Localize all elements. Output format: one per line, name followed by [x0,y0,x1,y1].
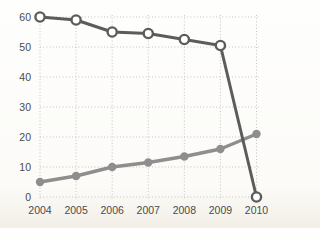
rising-series-filled-circles-point-2010 [252,130,260,138]
y-axis-tick-label: 10 [19,161,31,173]
rising-series-filled-circles-point-2004 [36,178,44,186]
rising-series-filled-circles-point-2007 [144,158,152,166]
x-axis-tick-label: 2007 [137,204,161,216]
y-axis-tick-label: 30 [19,101,31,113]
x-axis-tick-labels: 2004200520062007200820092010 [28,204,268,216]
x-axis-tick-label: 2004 [28,204,52,216]
line-chart: 0102030405060 20042005200620072008200920… [0,0,276,228]
gridlines-group [40,15,259,199]
rising-series-filled-circles-point-2006 [108,163,116,171]
rising-series-filled-circles-point-2005 [72,172,80,180]
y-axis-tick-label: 50 [19,41,31,53]
y-axis-tick-label: 60 [19,11,31,23]
declining-series-open-circles-point-2006 [108,27,117,36]
declining-series-open-circles-point-2007 [144,29,153,38]
declining-series-open-circles-point-2004 [35,12,44,21]
declining-series-open-circles-point-2008 [180,35,189,44]
y-axis-tick-label: 40 [19,71,31,83]
declining-series-open-circles-point-2009 [216,41,225,50]
x-axis-tick-label: 2008 [173,204,197,216]
x-axis-tick-label: 2005 [64,204,88,216]
y-axis-tick-label: 20 [19,131,31,143]
rising-series-filled-circles-point-2009 [216,145,224,153]
rising-series-filled-circles-point-2008 [180,152,188,160]
x-axis-tick-label: 2010 [245,204,269,216]
declining-series-open-circles-point-2010 [252,192,261,201]
x-axis-tick-label: 2009 [209,204,233,216]
y-axis-tick-label: 0 [25,191,31,203]
y-axis-tick-labels: 0102030405060 [19,11,31,203]
declining-series-open-circles-point-2005 [71,15,80,24]
chart-canvas: 0102030405060 20042005200620072008200920… [0,0,276,228]
x-axis-tick-label: 2006 [100,204,124,216]
